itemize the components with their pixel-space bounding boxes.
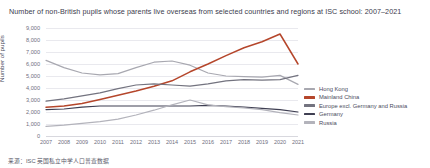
legend-label: Hong Kong xyxy=(319,86,348,92)
legend-item[interactable]: Russia xyxy=(304,120,407,126)
y-tick-label: 4,000 xyxy=(6,85,40,91)
y-tick-label: 2,000 xyxy=(6,109,40,115)
chart-title: Number of non-British pupils whose paren… xyxy=(9,7,401,16)
series-line xyxy=(46,100,298,126)
legend-swatch-icon xyxy=(304,121,315,124)
series-line xyxy=(46,105,298,112)
y-tick-label: 8,000 xyxy=(6,37,40,43)
legend-swatch-icon xyxy=(304,113,315,116)
chart-legend: Hong KongMainland ChinaEurope excl. Germ… xyxy=(304,86,407,126)
legend-swatch-icon xyxy=(304,88,315,91)
y-tick-label: 1,000 xyxy=(6,121,40,127)
legend-swatch-icon xyxy=(304,96,315,99)
y-tick-label: 5,000 xyxy=(6,73,40,79)
y-tick-label: 6,000 xyxy=(6,61,40,67)
legend-item[interactable]: Europe excl. Germany and Russia xyxy=(304,103,407,109)
y-tick-label: 3,000 xyxy=(6,97,40,103)
legend-label: Russia xyxy=(319,120,337,126)
y-tick-label: 7,000 xyxy=(6,49,40,55)
plot-area xyxy=(46,28,298,136)
legend-swatch-icon xyxy=(304,104,315,107)
series-line xyxy=(46,34,298,107)
legend-item[interactable]: Hong Kong xyxy=(304,86,407,92)
legend-label: Germany xyxy=(319,111,343,117)
x-tick-label: 2021 xyxy=(286,139,310,145)
source-note: 来源：ISC 英国私立中学人口普查数据 xyxy=(8,156,109,165)
gridline xyxy=(46,136,298,137)
series-lines xyxy=(46,28,298,136)
legend-label: Mainland China xyxy=(319,94,359,100)
chart-container: Number of non-British pupils whose paren… xyxy=(0,0,430,168)
legend-item[interactable]: Germany xyxy=(304,111,407,117)
y-tick-label: 9,000 xyxy=(6,25,40,31)
y-axis-title: Number of pupils xyxy=(0,35,5,82)
legend-label: Europe excl. Germany and Russia xyxy=(319,103,407,109)
legend-item[interactable]: Mainland China xyxy=(304,94,407,100)
series-line xyxy=(46,75,298,101)
